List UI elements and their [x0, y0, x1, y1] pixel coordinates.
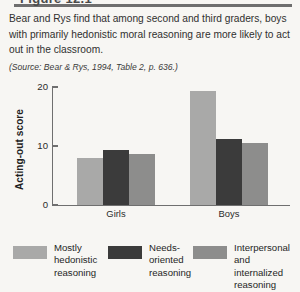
legend-label: Mostlyhedonisticreasoning — [54, 242, 112, 279]
y-tick-label: 10 — [8, 140, 48, 151]
legend-label-line: hedonistic — [54, 254, 112, 266]
x-axis-line — [52, 205, 290, 206]
legend-swatch — [108, 246, 142, 259]
plot-area — [53, 87, 290, 205]
y-tick-label: 0 — [8, 199, 48, 210]
legend-swatch — [13, 246, 47, 259]
legend-label-line: Mostly — [54, 242, 112, 254]
figure-description: Bear and Rys find that among second and … — [9, 11, 293, 58]
bar — [77, 158, 103, 205]
bar — [190, 91, 216, 205]
legend-swatch — [193, 246, 227, 259]
figure-title: Figure 12.1 — [20, 0, 92, 6]
legend-label-line: and internalized — [234, 254, 292, 279]
bar — [129, 154, 155, 205]
legend-label: Interpersonaland internalizedreasoning — [234, 242, 292, 292]
bar-chart: Acting-out score 01020 GirlsBoys — [0, 82, 300, 230]
figure-source: (Source: Bear & Rys, 1994, Table 2, p. 6… — [9, 62, 293, 72]
bar — [216, 139, 242, 205]
bar — [242, 143, 268, 205]
figure-title-bar: Figure 12.1 — [0, 0, 300, 8]
x-axis-label-boys: Boys — [190, 208, 268, 219]
x-axis-label-girls: Girls — [77, 208, 155, 219]
legend-label-line: reasoning — [149, 267, 207, 279]
legend-label-line: reasoning — [234, 279, 292, 291]
y-tick-label: 20 — [8, 81, 48, 92]
legend-label-line: Interpersonal — [234, 242, 292, 254]
bar — [103, 150, 129, 205]
legend-label-line: reasoning — [54, 267, 112, 279]
chart-legend: MostlyhedonisticreasoningNeeds-orientedr… — [0, 243, 300, 289]
